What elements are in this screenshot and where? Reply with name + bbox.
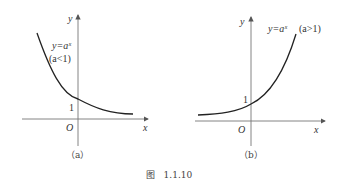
x-axis-label-b: x bbox=[313, 124, 319, 135]
panel-b: y x O 1 y=aˣ (a>1) （b） bbox=[195, 16, 325, 160]
figure-canvas: y x O 1 y=aˣ (a<1) （a） y x O 1 y=aˣ (a>1… bbox=[0, 0, 341, 185]
panel-a: y x O 1 y=aˣ (a<1) （a） bbox=[22, 13, 148, 160]
figure-caption: 图 1.1.10 bbox=[146, 170, 192, 180]
equation-label-b: y=aˣ bbox=[267, 23, 288, 34]
condition-label-b: (a>1) bbox=[299, 23, 321, 35]
condition-label-a: (a<1) bbox=[49, 53, 71, 65]
intercept-label-b: 1 bbox=[243, 94, 248, 105]
y-axis-label-a: y bbox=[67, 13, 73, 24]
panel-label-a: （a） bbox=[66, 150, 89, 160]
origin-label-a: O bbox=[66, 122, 73, 133]
panel-label-b: （b） bbox=[239, 150, 263, 160]
intercept-label-a: 1 bbox=[69, 102, 74, 113]
equation-label-a: y=aˣ bbox=[51, 40, 72, 51]
y-axis-label-b: y bbox=[239, 16, 245, 27]
x-axis-label-a: x bbox=[142, 122, 148, 133]
origin-label-b: O bbox=[238, 124, 245, 135]
